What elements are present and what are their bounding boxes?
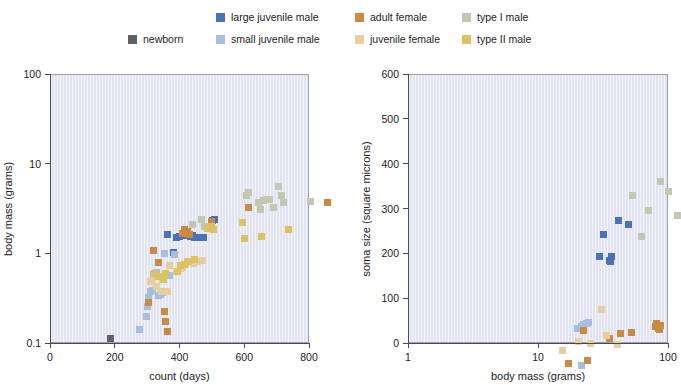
x-axis-tick-label: 800 — [300, 352, 318, 363]
y-axis-tick-label: 10 — [29, 158, 41, 169]
data-point — [198, 216, 205, 223]
data-point — [258, 233, 265, 240]
y-axis-line — [50, 74, 51, 343]
data-point — [257, 206, 264, 213]
x-axis-tick — [114, 343, 115, 348]
x-axis-tick — [668, 343, 669, 348]
data-point — [199, 257, 206, 264]
data-point — [674, 212, 681, 219]
data-point — [584, 357, 591, 364]
data-point — [608, 253, 615, 260]
y-axis-tick — [403, 298, 409, 299]
y-axis-tick — [403, 343, 409, 344]
x-axis-tick — [538, 343, 539, 348]
x-axis-tick-label: 200 — [106, 352, 124, 363]
data-point — [162, 318, 169, 325]
data-point — [189, 221, 196, 228]
y-axis-tick-label: 500 — [381, 114, 399, 125]
x-axis-tick — [179, 343, 180, 348]
data-point — [615, 217, 622, 224]
data-point — [645, 207, 652, 214]
y-axis-tick — [403, 118, 409, 119]
data-point — [628, 329, 635, 336]
data-point — [596, 253, 603, 260]
data-point — [598, 306, 605, 313]
data-point — [145, 299, 152, 306]
data-point — [136, 326, 143, 333]
data-point — [600, 231, 607, 238]
y-axis-tick-label: 400 — [381, 158, 399, 169]
y-axis-tick-label: 600 — [381, 69, 399, 80]
data-point — [617, 330, 624, 337]
data-point — [239, 219, 246, 226]
y-axis-tick — [403, 163, 409, 164]
y-axis-tick-label: 200 — [381, 248, 399, 259]
data-point — [162, 270, 169, 277]
data-point — [580, 327, 587, 334]
data-point — [210, 226, 217, 233]
data-point — [200, 234, 207, 241]
data-point — [164, 231, 171, 238]
data-point — [657, 322, 664, 329]
y-axis-tick-label: 300 — [381, 203, 399, 214]
data-point — [638, 233, 645, 240]
data-point — [270, 204, 277, 211]
plot-area-right — [408, 74, 668, 343]
data-point — [275, 183, 282, 190]
y-axis-tick-label: 0 — [393, 338, 399, 349]
data-point — [307, 198, 314, 205]
data-point — [665, 188, 672, 195]
x-axis-tick-label: 600 — [235, 352, 253, 363]
data-point — [164, 328, 171, 335]
data-point — [266, 196, 273, 203]
data-point — [161, 250, 168, 257]
data-point — [285, 226, 292, 233]
chart-panel-left: 02004006008000.1110100 count (days) body… — [0, 0, 340, 385]
data-point — [245, 204, 252, 211]
x-axis-tick — [408, 343, 409, 348]
data-point — [575, 338, 582, 345]
data-point — [565, 360, 572, 367]
y-axis-tick-label: 100 — [23, 69, 41, 80]
x-axis-title-right: body mass (grams) — [491, 371, 585, 382]
data-point — [107, 335, 114, 342]
x-axis-tick-label: 0 — [47, 352, 53, 363]
x-axis-tick-label: 100 — [659, 352, 677, 363]
data-point — [629, 192, 636, 199]
y-axis-tick — [45, 74, 51, 75]
data-point — [280, 199, 287, 206]
data-point — [150, 247, 157, 254]
y-axis-tick — [45, 253, 51, 254]
data-point — [245, 189, 252, 196]
y-axis-tick — [45, 343, 51, 344]
data-point — [603, 332, 610, 339]
data-point — [324, 199, 331, 206]
x-axis-tick — [309, 343, 310, 348]
data-point — [164, 288, 171, 295]
data-point — [160, 276, 167, 283]
x-axis-tick — [50, 343, 51, 348]
x-axis-tick-label: 10 — [532, 352, 544, 363]
x-axis-tick — [244, 343, 245, 348]
y-axis-title-left: body mass (grams) — [3, 161, 14, 255]
data-point — [191, 256, 198, 263]
y-axis-tick — [403, 253, 409, 254]
y-axis-tick-label: 1 — [35, 248, 41, 259]
y-axis-tick — [45, 163, 51, 164]
data-point — [171, 251, 178, 258]
y-axis-tick — [403, 74, 409, 75]
y-axis-tick-label: 0.1 — [26, 338, 41, 349]
data-point — [585, 319, 592, 326]
data-point — [155, 259, 162, 266]
y-axis-tick — [403, 208, 409, 209]
data-point — [143, 313, 150, 320]
y-axis-title-right: soma size (square microns) — [361, 141, 372, 276]
data-point — [186, 231, 193, 238]
y-axis-tick-label: 100 — [381, 293, 399, 304]
data-point — [278, 192, 285, 199]
chart-panel-right: 1101000100200300400500600 body mass (gra… — [339, 0, 679, 385]
x-axis-tick-label: 1 — [405, 352, 411, 363]
data-point — [559, 347, 566, 354]
x-axis-title-left: count (days) — [149, 371, 210, 382]
x-axis-tick-label: 400 — [171, 352, 189, 363]
